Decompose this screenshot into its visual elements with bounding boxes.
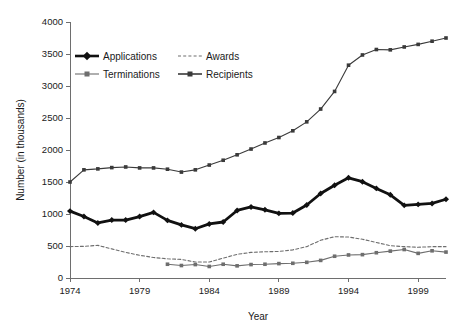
data-point-marker <box>444 250 448 254</box>
data-point-marker <box>361 253 365 257</box>
y-tick-label: 3500 <box>42 48 63 59</box>
data-point-marker <box>68 180 72 184</box>
y-tick-label: 500 <box>47 240 63 251</box>
data-point-marker <box>375 48 379 52</box>
y-axis-title: Number (in thousands) <box>15 99 26 201</box>
data-point-marker <box>166 262 170 266</box>
data-point-marker <box>96 167 100 171</box>
data-point-marker <box>361 53 365 57</box>
data-point-marker <box>249 147 253 151</box>
y-tick-label: 1500 <box>42 176 63 187</box>
legend-label-applications: Applications <box>103 51 157 62</box>
data-point-marker <box>277 262 281 266</box>
data-point-marker <box>430 249 434 253</box>
y-tick-label: 2500 <box>42 112 63 123</box>
data-point-marker <box>291 129 295 133</box>
y-tick-label: 2000 <box>42 144 63 155</box>
data-point-marker <box>305 120 309 124</box>
chart-figure: 05001000150020002500300035004000 1974197… <box>0 0 456 328</box>
data-point-marker <box>291 261 295 265</box>
y-tick-label: 3000 <box>42 80 63 91</box>
data-point-marker <box>333 254 337 258</box>
data-point-marker <box>263 141 267 145</box>
data-point-marker <box>207 163 211 167</box>
data-point-marker <box>430 39 434 43</box>
data-point-marker <box>235 264 239 268</box>
line-chart: 05001000150020002500300035004000 1974197… <box>0 0 456 328</box>
data-point-marker <box>319 259 323 263</box>
y-tick-label: 0 <box>58 272 63 283</box>
x-tick-label: 1994 <box>338 285 359 296</box>
legend-label-recipients: Recipients <box>206 69 253 80</box>
legend-label-terminations: Terminations <box>103 69 160 80</box>
data-point-marker <box>333 90 337 94</box>
data-point-marker <box>221 158 225 162</box>
y-tick-label: 4000 <box>42 16 63 27</box>
data-point-marker <box>375 251 379 255</box>
data-point-marker <box>82 168 86 172</box>
x-tick-label: 1984 <box>199 285 220 296</box>
x-tick-label: 1999 <box>408 285 429 296</box>
data-point-marker <box>347 253 351 257</box>
data-point-marker <box>249 263 253 267</box>
data-point-marker <box>402 248 406 252</box>
data-point-marker <box>207 265 211 269</box>
data-point-marker <box>347 63 351 67</box>
chart-background <box>0 0 456 328</box>
data-point-marker <box>110 166 114 170</box>
data-point-marker <box>152 166 156 170</box>
data-point-marker <box>402 45 406 49</box>
data-point-marker <box>194 168 198 172</box>
data-point-marker <box>263 262 267 266</box>
data-point-marker <box>319 107 323 111</box>
data-point-marker <box>124 165 128 169</box>
legend-marker-terminations-icon <box>85 72 90 77</box>
x-tick-label: 1979 <box>129 285 150 296</box>
data-point-marker <box>388 48 392 52</box>
x-tick-label: 1989 <box>268 285 289 296</box>
data-point-marker <box>180 264 184 268</box>
legend-item-applications: Applications <box>75 51 157 62</box>
y-tick-label: 1000 <box>42 208 63 219</box>
data-point-marker <box>138 166 142 170</box>
legend-label-awards: Awards <box>206 51 239 62</box>
data-point-marker <box>166 167 170 171</box>
x-axis-title: Year <box>248 311 269 322</box>
data-point-marker <box>180 170 184 174</box>
legend-marker-recipients-icon <box>188 72 193 77</box>
data-point-marker <box>388 249 392 253</box>
data-point-marker <box>221 262 225 266</box>
data-point-marker <box>444 36 448 40</box>
data-point-marker <box>416 252 420 256</box>
x-tick-label: 1974 <box>59 285 80 296</box>
data-point-marker <box>235 153 239 157</box>
data-point-marker <box>277 136 281 140</box>
data-point-marker <box>194 263 198 267</box>
data-point-marker <box>416 43 420 47</box>
data-point-marker <box>305 261 309 265</box>
